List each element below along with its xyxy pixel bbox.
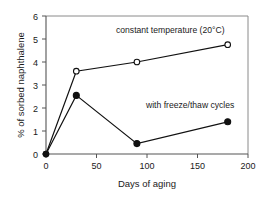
x-tick-label-100: 100: [139, 161, 154, 171]
y-tick-label-2: 2: [33, 104, 38, 114]
annotation-constant-temperature: constant temperature (20°C): [116, 25, 225, 35]
y-tick-label-6: 6: [33, 12, 38, 22]
data-point-marker: [43, 151, 49, 157]
data-point-marker: [134, 59, 140, 65]
y-tick-label-5: 5: [33, 35, 38, 45]
annotation-freeze-thaw-cycles: with freeze/thaw cycles: [145, 100, 234, 110]
data-point-marker: [225, 42, 231, 48]
x-tick-label-200: 200: [240, 161, 255, 171]
y-tick-label-1: 1: [33, 127, 38, 137]
naphthalene-aging-line-chart: 6 5 4 3 2 1 0 0 50 100 150 200 Days of a…: [0, 0, 277, 198]
data-point-marker: [74, 68, 80, 74]
x-tick-label-150: 150: [190, 161, 205, 171]
chart-figure: 6 5 4 3 2 1 0 0 50 100 150 200 Days of a…: [0, 0, 277, 198]
data-point-marker: [73, 92, 79, 98]
data-point-marker: [225, 119, 231, 125]
y-tick-label-3: 3: [33, 81, 38, 91]
x-axis-title: Days of aging: [118, 178, 176, 189]
x-tick-label-0: 0: [43, 161, 48, 171]
x-tick-label-50: 50: [91, 161, 101, 171]
y-tick-label-4: 4: [33, 58, 38, 68]
y-axis-title: % of sorbed naphthalene: [15, 32, 26, 138]
y-tick-label-0: 0: [33, 150, 38, 160]
data-point-marker: [134, 141, 140, 147]
